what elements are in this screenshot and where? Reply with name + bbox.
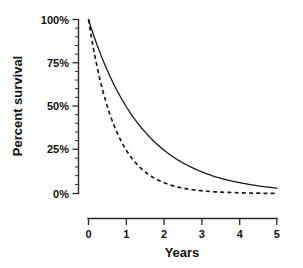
y-axis-title: Percent survival [10, 56, 25, 156]
x-axis-major-ticks [89, 219, 277, 226]
x-tick-label-5: 5 [274, 228, 280, 240]
y-tick-label-100: 100% [41, 14, 69, 26]
series-solid-curve [89, 20, 277, 189]
x-axis-title: Years [165, 245, 200, 260]
survival-chart-figure: 100% 75% 50% 25% 0% Percent survival 0 1… [0, 0, 303, 268]
chart-canvas: 100% 75% 50% 25% 0% Percent survival 0 1… [0, 0, 303, 268]
x-tick-label-3: 3 [199, 228, 205, 240]
x-tick-label-2: 2 [161, 228, 167, 240]
x-tick-label-4: 4 [237, 228, 244, 240]
y-tick-label-75: 75% [47, 57, 69, 69]
y-tick-label-25: 25% [47, 143, 69, 155]
y-tick-label-50: 50% [47, 100, 69, 112]
series-dashed-curve [89, 20, 277, 194]
x-tick-label-0: 0 [85, 228, 91, 240]
y-tick-label-0: 0% [53, 188, 69, 200]
x-tick-label-1: 1 [123, 228, 129, 240]
